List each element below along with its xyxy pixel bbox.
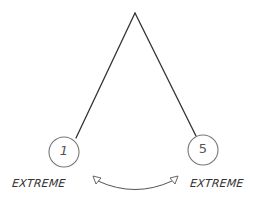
node-label-5: 5	[193, 141, 213, 156]
node-label-1: 1	[54, 143, 74, 158]
left-branch-line	[76, 13, 135, 138]
right-extreme-label: EXTREME	[189, 177, 244, 190]
diagram-canvas	[0, 0, 271, 201]
double-arrow-curve	[98, 181, 172, 190]
right-arrowhead-icon	[170, 176, 178, 184]
right-branch-line	[135, 13, 196, 136]
left-arrowhead-icon	[93, 176, 101, 184]
left-extreme-label: EXTREME	[11, 177, 66, 190]
